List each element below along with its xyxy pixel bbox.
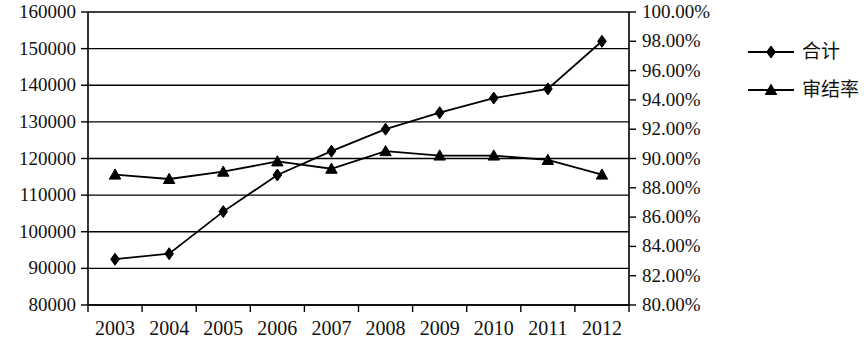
legend-label: 审结率 (802, 79, 859, 100)
right-axis-tick-label: 96.00% (642, 60, 701, 81)
right-axis-tick-label: 92.00% (642, 118, 701, 139)
x-axis-tick-label: 2009 (420, 317, 460, 339)
right-axis-tick-label: 94.00% (642, 89, 701, 110)
left-axis-tick-label: 100000 (19, 221, 76, 242)
right-axis-tick-label: 84.00% (642, 235, 701, 256)
left-axis-tick-label: 120000 (19, 148, 76, 169)
right-axis-tick-label: 90.00% (642, 148, 701, 169)
left-axis-tick-label: 150000 (19, 38, 76, 59)
x-axis-tick-label: 2005 (203, 317, 243, 339)
x-axis-tick-label: 2006 (257, 317, 297, 339)
right-axis-tick-label: 88.00% (642, 177, 701, 198)
left-axis-tick-label: 110000 (20, 184, 76, 205)
x-axis-tick-label: 2012 (582, 317, 622, 339)
right-axis-tick-label: 80.00% (642, 294, 701, 315)
x-axis-tick-label: 2010 (474, 317, 514, 339)
right-axis-tick-label: 98.00% (642, 30, 701, 51)
x-axis-tick-label: 2011 (528, 317, 567, 339)
chart-background (0, 0, 864, 344)
right-axis-tick-label: 100.00% (642, 1, 710, 22)
left-axis-tick-label: 90000 (29, 257, 77, 278)
legend-label: 合计 (802, 41, 840, 62)
left-axis-labels: 8000090000100000110000120000130000140000… (19, 1, 76, 315)
left-axis-tick-label: 130000 (19, 111, 76, 132)
right-axis-tick-label: 86.00% (642, 206, 701, 227)
x-axis-tick-label: 2004 (149, 317, 189, 339)
left-axis-tick-label: 160000 (19, 1, 76, 22)
right-axis-tick-label: 82.00% (642, 265, 701, 286)
chart-container: 8000090000100000110000120000130000140000… (0, 0, 864, 344)
line-chart: 8000090000100000110000120000130000140000… (0, 0, 864, 344)
left-axis-tick-label: 80000 (29, 294, 77, 315)
x-axis-tick-label: 2007 (311, 317, 351, 339)
x-axis-tick-label: 2003 (95, 317, 135, 339)
x-axis-tick-label: 2008 (366, 317, 406, 339)
right-axis-labels: 80.00%82.00%84.00%86.00%88.00%90.00%92.0… (642, 1, 710, 315)
left-axis-tick-label: 140000 (19, 74, 76, 95)
